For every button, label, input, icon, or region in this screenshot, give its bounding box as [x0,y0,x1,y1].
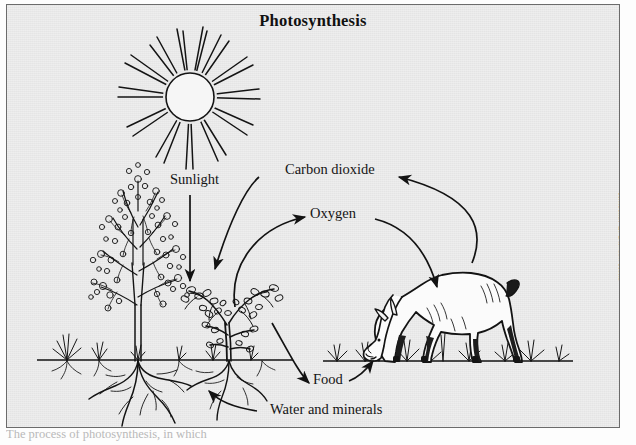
arrow-carbon-dioxide-to-plant [215,177,259,269]
label-oxygen: Oxygen [310,205,356,222]
photosynthesis-figure-frame: Photosynthesis [6,4,620,428]
arrow-carbon-dioxide-from-deer [399,177,477,263]
label-water-and-minerals: Water and minerals [270,401,382,418]
grazing-deer [364,273,522,362]
flowering-tree [89,163,190,361]
plant-roots [52,361,275,426]
label-carbon-dioxide: Carbon dioxide [285,161,375,178]
figure-caption: The process of photosynthesis, in which [6,430,626,445]
ground-line [37,360,573,361]
figure-page: Photosynthesis [0,0,636,445]
label-food: Food [313,371,343,388]
sun-illustration [118,27,260,169]
arrow-food-from-plant [272,323,309,383]
arrow-water-and-minerals [209,391,257,411]
caption-text: The process of photosynthesis, in which [6,430,626,442]
label-sunlight: Sunlight [170,171,219,188]
arrow-food-to-deer [349,361,373,381]
artist-credit: Kimberly L. Dawson Kurz [617,193,620,281]
small-shrub [180,284,284,361]
arrow-oxygen-to-deer [375,219,437,287]
